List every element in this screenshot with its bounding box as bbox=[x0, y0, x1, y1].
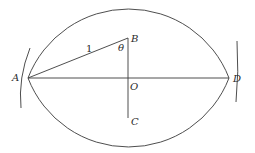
label-O: O bbox=[130, 81, 138, 92]
segment-AB bbox=[28, 38, 128, 78]
label-B: B bbox=[130, 33, 138, 44]
small-arc-at-D bbox=[236, 41, 238, 102]
label-length-1: 1 bbox=[86, 43, 92, 54]
lower-arc bbox=[28, 78, 229, 147]
label-C: C bbox=[131, 116, 139, 127]
label-A: A bbox=[11, 72, 19, 83]
geometry-diagram: A B C D O 1 θ bbox=[0, 0, 255, 153]
label-D: D bbox=[232, 73, 241, 84]
upper-arc bbox=[28, 9, 229, 78]
label-theta: θ bbox=[118, 42, 124, 53]
